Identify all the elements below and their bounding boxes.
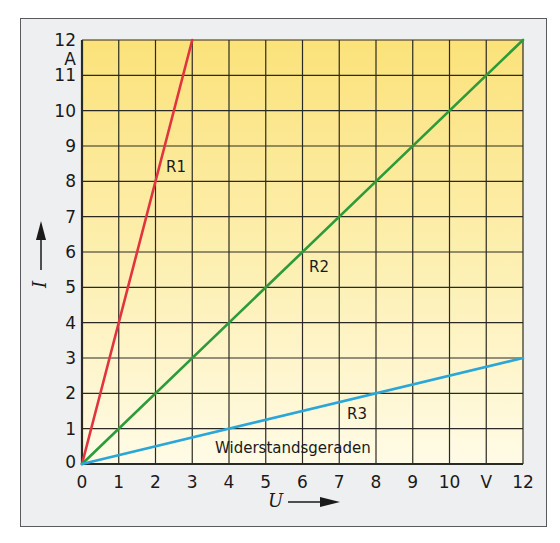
resistance-line-chart: 012345678910V12 01234567891011A12 R1 R2 … (0, 0, 560, 543)
y-tick-label: 8 (65, 171, 76, 191)
x-tick-label: 7 (334, 472, 345, 492)
x-axis-arrow-icon (288, 497, 340, 507)
y-tick-label: 0 (65, 452, 76, 472)
figure-caption-faded (20, 530, 280, 543)
y-tick-label: 5 (65, 277, 76, 297)
y-tick-label: 7 (65, 207, 76, 227)
y-axis-arrow-icon (36, 221, 46, 270)
x-tick-label: 10 (439, 472, 461, 492)
x-tick-label: 0 (77, 472, 88, 492)
label-r3: R3 (347, 405, 367, 423)
label-r1: R1 (166, 158, 186, 176)
y-tick-label: 2 (65, 383, 76, 403)
y-tick-label: A (64, 49, 76, 69)
x-tick-label: 4 (224, 472, 235, 492)
chart-title: Widerstandsgeraden (215, 439, 371, 457)
y-tick-label: 3 (65, 348, 76, 368)
x-tick-label: V (480, 472, 492, 492)
y-tick-label: 9 (65, 136, 76, 156)
x-tick-label: 1 (113, 472, 124, 492)
x-tick-label: 5 (260, 472, 271, 492)
y-axis-ticks: 01234567891011A12 (54, 30, 76, 472)
y-tick-label: 1 (65, 419, 76, 439)
y-tick-label: 4 (65, 313, 76, 333)
y-tick-label: 10 (54, 101, 76, 121)
x-tick-label: 2 (150, 472, 161, 492)
x-tick-label: 3 (187, 472, 198, 492)
x-tick-label: 9 (407, 472, 418, 492)
y-tick-label: 6 (65, 242, 76, 262)
label-r2: R2 (309, 258, 329, 276)
y-axis-label: I (29, 280, 50, 289)
x-axis-ticks: 012345678910V12 (77, 472, 534, 492)
x-axis-label: U (268, 490, 284, 511)
x-tick-label: 6 (297, 472, 308, 492)
y-tick-label: 12 (54, 30, 76, 50)
x-tick-label: 8 (371, 472, 382, 492)
x-tick-label: 12 (512, 472, 534, 492)
